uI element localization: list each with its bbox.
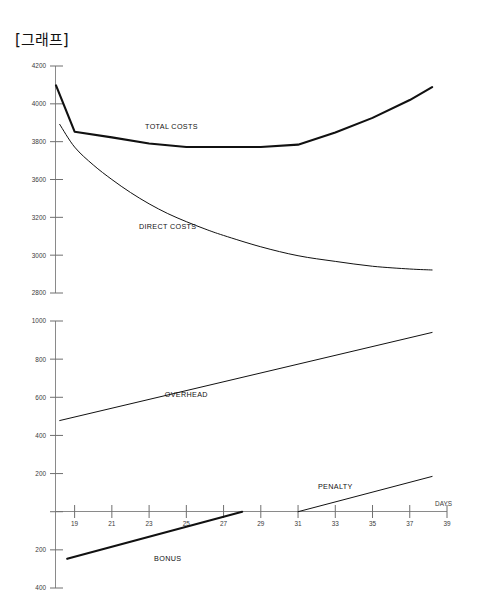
upper-panel: 2800300032003600380040004200 TOTAL COSTS… bbox=[32, 62, 432, 296]
lower-series-paths bbox=[60, 332, 432, 558]
series-line-overhead bbox=[60, 332, 432, 420]
series-label-bonus: BONUS bbox=[154, 554, 181, 563]
lower-x-tick-labels: 1921232527293133353739 bbox=[71, 520, 451, 527]
x-tick-label: 29 bbox=[257, 520, 265, 527]
lower-y-tick-labels: 4002002004006008001000 bbox=[32, 317, 47, 591]
y-tick-label: 600 bbox=[35, 394, 46, 401]
upper-series-paths bbox=[56, 85, 432, 270]
x-tick-label: 35 bbox=[369, 520, 377, 527]
figure: 2800300032003600380040004200 TOTAL COSTS… bbox=[0, 0, 484, 613]
x-tick-label: 19 bbox=[71, 520, 79, 527]
upper-y-tick-labels: 2800300032003600380040004200 bbox=[32, 62, 47, 296]
y-tick-label: 400 bbox=[35, 584, 46, 591]
x-tick-label: 39 bbox=[443, 520, 451, 527]
series-line-total-costs bbox=[56, 85, 432, 147]
x-tick-label: 27 bbox=[220, 520, 228, 527]
series-label-overhead: OVERHEAD bbox=[165, 390, 208, 399]
series-label-total-costs: TOTAL COSTS bbox=[145, 122, 198, 131]
x-axis-title: DAYS bbox=[435, 500, 452, 507]
x-tick-label: 31 bbox=[294, 520, 302, 527]
y-tick-label: 3000 bbox=[32, 252, 47, 259]
series-line-bonus bbox=[67, 512, 242, 559]
y-tick-label: 800 bbox=[35, 356, 46, 363]
lower-panel: 4002002004006008001000 19212325272931333… bbox=[32, 317, 452, 591]
x-tick-label: 21 bbox=[108, 520, 116, 527]
lower-y-ticks bbox=[50, 321, 63, 588]
y-tick-label: 3200 bbox=[32, 214, 47, 221]
y-tick-label: 200 bbox=[35, 546, 46, 553]
y-tick-label: 4000 bbox=[32, 100, 47, 107]
y-tick-label: 2800 bbox=[32, 289, 47, 296]
series-label-direct-costs: DIRECT COSTS bbox=[139, 222, 197, 231]
series-label-penalty: PENALTY bbox=[318, 482, 353, 491]
x-tick-label: 33 bbox=[332, 520, 340, 527]
upper-series-labels: TOTAL COSTSDIRECT COSTS bbox=[139, 122, 198, 231]
lower-series-labels: OVERHEADPENALTYBONUS bbox=[154, 390, 353, 563]
y-tick-label: 200 bbox=[35, 470, 46, 477]
x-tick-label: 37 bbox=[406, 520, 414, 527]
y-tick-label: 3800 bbox=[32, 138, 47, 145]
chart-page: [그래프] 2800300032003600380040004200 TOTAL… bbox=[0, 0, 484, 613]
y-tick-label: 400 bbox=[35, 432, 46, 439]
y-tick-label: 4200 bbox=[32, 62, 47, 69]
x-tick-label: 23 bbox=[146, 520, 154, 527]
y-tick-label: 1000 bbox=[32, 317, 47, 324]
y-tick-label: 3600 bbox=[32, 176, 47, 183]
